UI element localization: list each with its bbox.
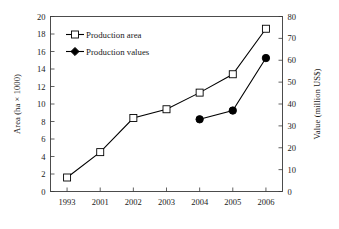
x-tick-label: 2001 xyxy=(92,197,109,207)
data-point-marker xyxy=(130,115,137,122)
left-tick-label: 0 xyxy=(41,187,45,197)
right-tick-label: 10 xyxy=(288,165,297,175)
left-axis-tick-labels: 02468101214161820 xyxy=(37,12,46,197)
right-tick-label: 60 xyxy=(288,55,297,65)
right-tick-label: 80 xyxy=(288,12,297,22)
left-tick-label: 20 xyxy=(37,12,46,22)
x-tick-label: 2004 xyxy=(191,197,209,207)
left-tick-label: 12 xyxy=(37,82,46,92)
left-tick-label: 4 xyxy=(41,152,46,162)
left-axis-ticks xyxy=(51,17,55,192)
data-point-marker xyxy=(97,149,104,156)
left-tick-label: 8 xyxy=(41,117,45,127)
legend-label-production-values: Production values xyxy=(86,47,150,57)
right-axis-ticks xyxy=(279,17,283,192)
left-tick-label: 14 xyxy=(37,64,46,74)
filled-diamond-icon xyxy=(71,47,79,55)
right-tick-label: 70 xyxy=(288,33,297,43)
open-square-icon xyxy=(72,31,79,38)
x-tick-label: 1993 xyxy=(59,197,76,207)
data-point-marker xyxy=(229,71,236,78)
right-tick-label: 40 xyxy=(288,99,297,109)
x-tick-label: 2006 xyxy=(257,197,274,207)
data-point-marker xyxy=(262,54,269,61)
left-tick-label: 16 xyxy=(37,47,46,57)
x-tick-label: 2005 xyxy=(224,197,241,207)
left-tick-label: 10 xyxy=(37,99,46,109)
x-axis-tick-labels: 1993200120022003200420052006 xyxy=(59,197,275,207)
left-tick-label: 6 xyxy=(41,134,45,144)
right-tick-label: 50 xyxy=(288,77,297,87)
plot-frame xyxy=(51,17,283,192)
x-tick-label: 2003 xyxy=(158,197,175,207)
chart-figure: 02468101214161820 01020304050607080 1993… xyxy=(0,0,339,229)
data-point-marker xyxy=(196,116,203,123)
data-point-marker xyxy=(196,89,203,96)
right-axis-tick-labels: 01020304050607080 xyxy=(288,12,297,197)
right-tick-label: 0 xyxy=(288,187,292,197)
chart-legend: Production area Production values xyxy=(66,30,150,57)
data-point-marker xyxy=(229,107,236,114)
left-axis-title: Area (ha × 1000) xyxy=(12,74,22,134)
legend-entry-production-values: Production values xyxy=(66,47,150,57)
right-axis-title: Value (million US$) xyxy=(312,69,322,140)
data-point-marker xyxy=(64,174,71,181)
legend-label-production-area: Production area xyxy=(86,30,142,40)
legend-entry-production-area: Production area xyxy=(66,30,142,40)
right-tick-label: 20 xyxy=(288,143,297,153)
x-axis-ticks xyxy=(67,188,266,192)
data-point-marker xyxy=(163,106,170,113)
left-tick-label: 2 xyxy=(41,169,45,179)
right-tick-label: 30 xyxy=(288,121,297,131)
chart-canvas: 02468101214161820 01020304050607080 1993… xyxy=(0,0,339,229)
x-tick-label: 2002 xyxy=(125,197,142,207)
left-tick-label: 18 xyxy=(37,29,46,39)
data-point-marker xyxy=(262,25,269,32)
